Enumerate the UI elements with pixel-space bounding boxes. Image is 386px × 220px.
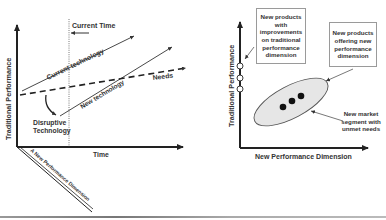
- callout-traditional-improvements: New products with improvements on tradit…: [256, 8, 306, 64]
- callout-traditional-text: New products with improvements on tradit…: [259, 13, 303, 59]
- disruptive-label-line2: Technology: [33, 127, 71, 135]
- open-circle-icon: [237, 63, 243, 69]
- needs-label: Needs: [152, 72, 173, 81]
- callout-market-segment-text: New market segment with unmet needs: [341, 110, 381, 132]
- disruptive-arrow-icon: [46, 95, 56, 115]
- left-x-axis-label: Time: [93, 151, 109, 158]
- callout-arrow-icon: [245, 47, 254, 59]
- left-diagram: Traditional Performance Time A New Perfo…: [4, 19, 186, 212]
- current-time-label: Current Time: [72, 22, 116, 29]
- callout-new-dimension-text: New products offering new performance di…: [332, 29, 374, 59]
- filled-dot-icon: [280, 104, 287, 111]
- left-y-axis-label: Traditional Performance: [4, 58, 13, 140]
- right-y-axis-label: Traditional Performance: [227, 45, 236, 127]
- new-technology-label: New technology: [79, 78, 126, 111]
- callout-arrow-icon: [311, 111, 343, 121]
- open-circle-icon: [237, 75, 243, 81]
- right-x-axis-label: New Performance Dimension: [255, 153, 352, 160]
- callout-market-segment: New market segment with unmet needs: [340, 110, 382, 133]
- diagonal-axis-label: A New Performance Dimension: [29, 147, 91, 202]
- open-circle-icon: [237, 86, 243, 92]
- callout-new-dimension: New products offering new performance di…: [329, 22, 377, 67]
- filled-dot-icon: [289, 98, 296, 105]
- left-diagonal-axis: [17, 147, 92, 212]
- filled-dot-icon: [298, 93, 305, 100]
- bottom-divider: [0, 216, 386, 218]
- disruptive-label-line1: Disruptive: [33, 119, 66, 127]
- callout-arrow-icon: [326, 69, 353, 81]
- current-technology-label: Current technology: [45, 47, 105, 82]
